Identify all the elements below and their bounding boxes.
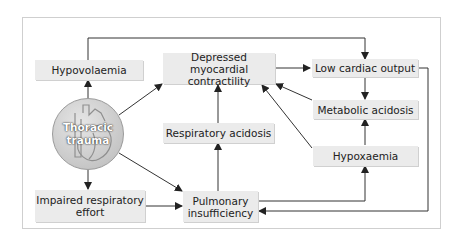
node-label: Hypovolaemia: [51, 64, 126, 76]
center-label-line2: trauma: [63, 134, 113, 147]
node-label-line1: Impaired respiratory: [36, 194, 143, 206]
node-label: Hypoxaemia: [333, 150, 399, 162]
node-label: Respiratory acidosis: [166, 127, 272, 139]
node-low-cardiac-output: Low cardiac output: [312, 59, 418, 77]
node-label-line2: insufficiency: [188, 207, 254, 219]
node-label-line2: contractility: [188, 75, 251, 87]
node-hypoxaemia: Hypoxaemia: [313, 146, 418, 166]
node-pulmonary-insufficiency: Pulmonary insufficiency: [183, 191, 258, 222]
center-label: Thoracic trauma: [53, 99, 123, 169]
node-label: Metabolic acidosis: [317, 104, 413, 116]
node-depressed-myocardial-contractility: Depressed myocardial contractility: [163, 53, 275, 84]
node-label-line1: Pulmonary: [193, 195, 249, 207]
node-label-line2: effort: [76, 206, 105, 218]
node-respiratory-acidosis: Respiratory acidosis: [163, 123, 274, 143]
node-label-line1: Depressed myocardial: [163, 51, 275, 75]
node-label: Low cardiac output: [315, 62, 415, 74]
node-hypovolaemia: Hypovolaemia: [35, 60, 143, 80]
node-impaired-respiratory-effort: Impaired respiratory effort: [35, 190, 145, 222]
center-label-line1: Thoracic: [63, 121, 113, 134]
node-thoracic-trauma: Thoracic trauma: [52, 98, 124, 170]
node-metabolic-acidosis: Metabolic acidosis: [313, 100, 418, 119]
